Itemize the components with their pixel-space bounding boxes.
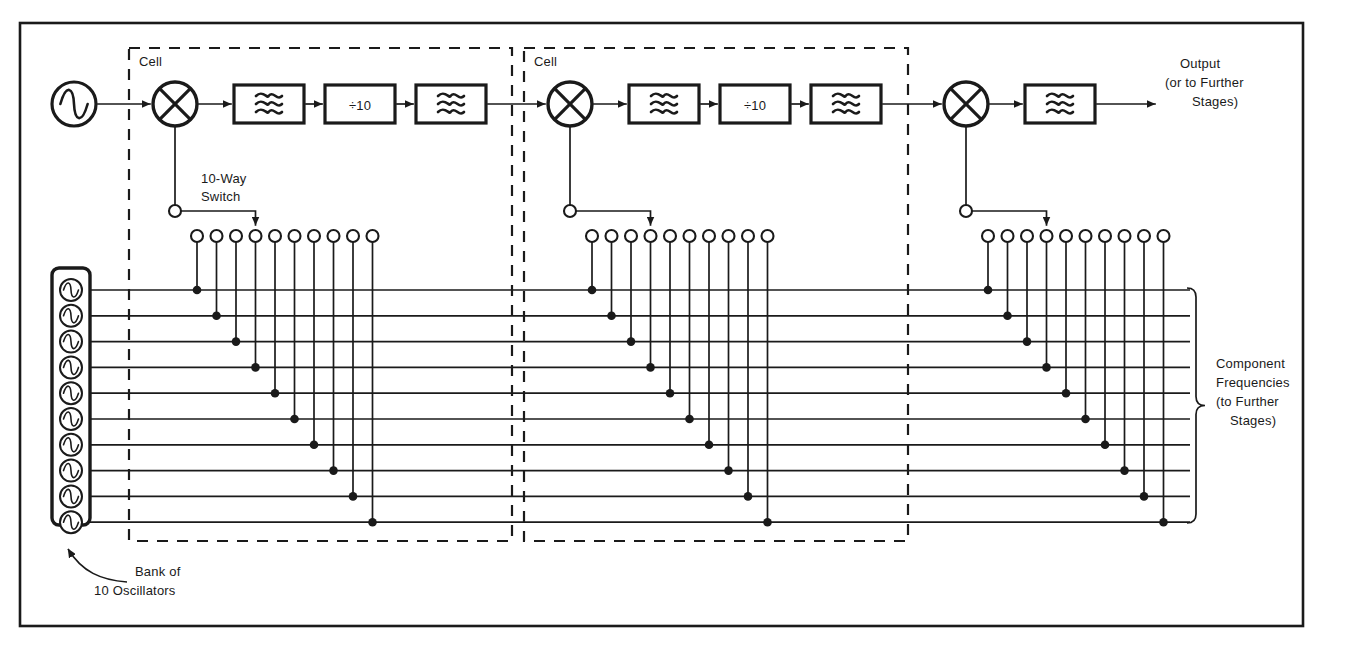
- ten-way-switch-2-junction-dot-8: [724, 466, 733, 475]
- oscillator-7: [60, 434, 82, 456]
- diagram-root: CellCell ÷10÷10 10-WaySwitchOutput(or to…: [0, 0, 1350, 658]
- oscillator-1: [60, 279, 82, 301]
- ten-way-switch-3-junction-dot-5: [1062, 389, 1071, 398]
- component-frequencies-brace: [1187, 288, 1205, 523]
- ten-way-switch-1-junction-dot-9: [349, 492, 358, 501]
- ten-way-switch-1-contact-2: [211, 230, 223, 242]
- cell-label-2: Cell: [534, 54, 557, 69]
- ten-way-switch-1-contact-7: [308, 230, 320, 242]
- ten-way-switch-2-contact-5: [664, 230, 676, 242]
- ten-way-switch-2-junction-dot-1: [588, 286, 597, 295]
- bank-label-line-2: 10 Oscillators: [94, 583, 176, 598]
- divider-1-label: ÷10: [349, 98, 371, 113]
- ten-way-switch-3-junction-dot-6: [1081, 415, 1090, 424]
- ten-way-switch-2-contact-9: [742, 230, 754, 242]
- ten-way-switch-2-contact-8: [723, 230, 735, 242]
- ten-way-switch-3-contact-9: [1138, 230, 1150, 242]
- ten-way-switch-3-junction-dot-1: [984, 286, 993, 295]
- ten-way-switch-1-pole-contact: [169, 205, 181, 217]
- oscillator-8: [60, 460, 82, 482]
- ten-way-switch-2-contact-10: [762, 230, 774, 242]
- output-label-line-1: Output: [1180, 56, 1220, 71]
- ten-way-switch-2-junction-dot-3: [627, 337, 636, 346]
- ten-way-switch-1-junction-dot-3: [232, 337, 241, 346]
- ten-way-switch-2-junction-dot-6: [685, 415, 694, 424]
- ten-way-switch-3-junction-dot-9: [1140, 492, 1149, 501]
- ten-way-switch-2-junction-dot-4: [646, 363, 655, 372]
- ten-way-switch-3-wiper-arm: [972, 211, 1047, 225]
- oscillator-9: [60, 485, 82, 507]
- ten-way-switch-2-junction-dot-5: [666, 389, 675, 398]
- ten-way-switch-3-contact-1: [982, 230, 994, 242]
- oscillator-10: [60, 511, 82, 533]
- ten-way-switch-3-contact-7: [1099, 230, 1111, 242]
- bank-label-line-1: Bank of: [135, 564, 181, 579]
- ten-way-switch-2-contact-3: [625, 230, 637, 242]
- ten-way-switch-3-junction-dot-10: [1159, 518, 1168, 527]
- ten-way-switch-3: [960, 126, 1170, 527]
- cell-label-1: Cell: [139, 54, 162, 69]
- divider-2-label: ÷10: [744, 98, 766, 113]
- ten-way-switch-1-junction-dot-4: [251, 363, 260, 372]
- ten-way-switch-2-pole-contact: [564, 205, 576, 217]
- ten-way-switch-3-contact-6: [1080, 230, 1092, 242]
- signal-chain-layer: ÷10÷10: [52, 82, 1155, 126]
- annotation-layer: 10-WaySwitchOutput(or to FurtherStages)C…: [68, 56, 1290, 598]
- ten-way-switch-3-contact-8: [1119, 230, 1131, 242]
- ten-way-switch-3-junction-dot-8: [1120, 466, 1129, 475]
- ten-way-switch-1-junction-dot-6: [290, 415, 299, 424]
- frequency-synthesizer-diagram: CellCell ÷10÷10 10-WaySwitchOutput(or to…: [0, 0, 1350, 658]
- ten-way-switch-1-contact-5: [269, 230, 281, 242]
- mixer-3: [944, 82, 988, 126]
- ten-way-switch-1-junction-dot-7: [310, 441, 319, 450]
- ten-way-switch-1-contact-3: [230, 230, 242, 242]
- ten-way-switch-2-junction-dot-7: [705, 441, 714, 450]
- ten-way-switch-2-wiper-arm: [576, 211, 651, 225]
- mixer-2: [548, 82, 592, 126]
- ten-way-switch-3-pole-contact: [960, 205, 972, 217]
- ten-way-switch-3-junction-dot-4: [1042, 363, 1051, 372]
- ten-way-switch-2-contact-2: [606, 230, 618, 242]
- ten-way-switch-3-contact-3: [1021, 230, 1033, 242]
- switch-label-line-1: 10-Way: [201, 171, 247, 186]
- switch-label-line-2: Switch: [201, 189, 241, 204]
- mixer-1: [153, 82, 197, 126]
- ten-way-switch-1-contact-1: [191, 230, 203, 242]
- switch-layer: [169, 126, 1170, 527]
- ten-way-switch-1-junction-dot-10: [368, 518, 377, 527]
- component-label-line-4: Stages): [1230, 413, 1276, 428]
- master-source-oscillator: [52, 82, 96, 126]
- ten-way-switch-2-contact-7: [703, 230, 715, 242]
- ten-way-switch-1-contact-4: [250, 230, 262, 242]
- oscillator-4: [60, 356, 82, 378]
- ten-way-switch-1-wiper-arm: [181, 211, 256, 225]
- ten-way-switch-1-contact-10: [367, 230, 379, 242]
- ten-way-switch-1-contact-8: [328, 230, 340, 242]
- oscillator-5: [60, 382, 82, 404]
- ten-way-switch-1-junction-dot-2: [212, 312, 221, 321]
- oscillator-6: [60, 408, 82, 430]
- ten-way-switch-3-junction-dot-3: [1023, 337, 1032, 346]
- component-label-line-3: (to Further: [1216, 394, 1279, 409]
- ten-way-switch-1-contact-9: [347, 230, 359, 242]
- ten-way-switch-1-junction-dot-1: [193, 286, 202, 295]
- ten-way-switch-1-junction-dot-8: [329, 466, 338, 475]
- ten-way-switch-2-junction-dot-2: [607, 312, 616, 321]
- ten-way-switch-1-contact-6: [289, 230, 301, 242]
- output-label-line-2: (or to Further: [1165, 75, 1244, 90]
- ten-way-switch-3-contact-4: [1041, 230, 1053, 242]
- ten-way-switch-1-junction-dot-5: [271, 389, 280, 398]
- output-label-line-3: Stages): [1192, 94, 1238, 109]
- ten-way-switch-3-contact-5: [1060, 230, 1072, 242]
- ten-way-switch-3-junction-dot-2: [1003, 312, 1012, 321]
- ten-way-switch-2-contact-1: [586, 230, 598, 242]
- ten-way-switch-3-contact-2: [1002, 230, 1014, 242]
- component-label-line-1: Component: [1216, 356, 1285, 371]
- oscillator-3: [60, 331, 82, 353]
- ten-way-switch-3-contact-10: [1158, 230, 1170, 242]
- ten-way-switch-2: [564, 126, 774, 527]
- bank-callout-arrow: [68, 549, 127, 582]
- component-label-line-2: Frequencies: [1216, 375, 1290, 390]
- ten-way-switch-1: [169, 126, 379, 527]
- ten-way-switch-2-junction-dot-10: [763, 518, 772, 527]
